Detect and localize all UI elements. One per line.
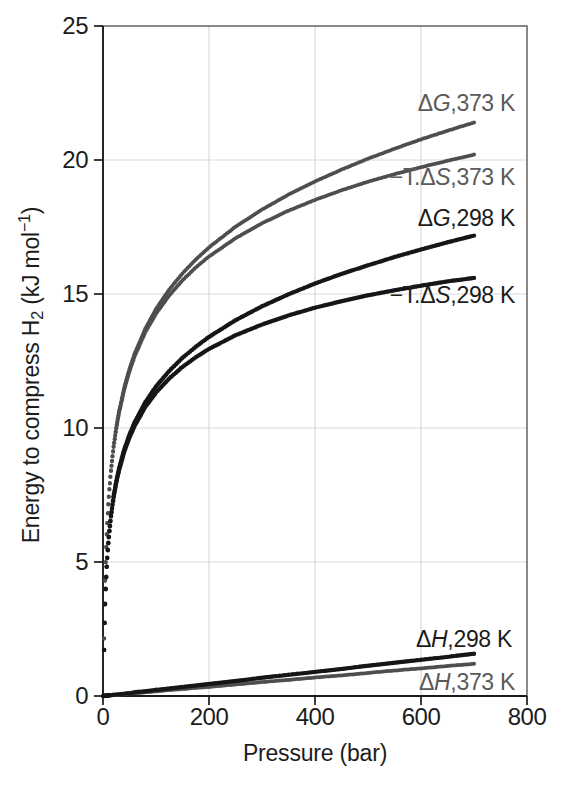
y-axis-title: Energy to compress H2 (kJ mol−1) xyxy=(15,165,43,585)
label-suffix: ,373 K xyxy=(450,164,515,190)
x-tick-label-600: 600 xyxy=(402,703,441,731)
y-tick-label-25: 25 xyxy=(18,12,88,40)
label-suffix: ,298 K xyxy=(450,282,515,308)
label-suffix: ,298 K xyxy=(447,626,512,652)
x-tick-label-800: 800 xyxy=(508,703,547,731)
label-symbol: S xyxy=(435,164,450,190)
label-symbol: H xyxy=(431,626,447,652)
label-prefix: −T.Δ xyxy=(390,164,436,190)
label-prefix: Δ xyxy=(419,669,434,695)
curve-label-delta-H-373K: ΔH,373 K xyxy=(419,669,515,695)
label-prefix: −T.Δ xyxy=(390,282,436,308)
label-prefix: Δ xyxy=(418,205,433,231)
x-axis-title: Pressure (bar) xyxy=(103,740,527,767)
compression-energy-chart: 0200400600800 0510152025 Energy to compr… xyxy=(0,0,567,786)
label-suffix: ,298 K xyxy=(450,205,515,231)
label-symbol: S xyxy=(435,282,450,308)
y-title-text: Energy to compress H xyxy=(18,320,44,544)
label-symbol: G xyxy=(433,90,451,116)
y-title-text: ) xyxy=(18,207,44,214)
curve-label-minus-T-delta-S-373K: −T.ΔS,373 K xyxy=(390,164,515,190)
curve-label-delta-H-298K: ΔH,298 K xyxy=(416,626,512,652)
y-title-subscript: 2 xyxy=(28,311,46,320)
x-tick-label-0: 0 xyxy=(97,703,110,731)
curve-label-minus-T-delta-S-298K: −T.ΔS,298 K xyxy=(390,282,515,308)
y-title-superscript: −1 xyxy=(15,214,33,232)
label-suffix: ,373 K xyxy=(450,90,515,116)
x-tick-label-200: 200 xyxy=(190,703,229,731)
curve-label-delta-G-373K: ΔG,373 K xyxy=(418,90,515,116)
label-prefix: Δ xyxy=(418,90,433,116)
y-title-text: (kJ mol xyxy=(18,232,44,311)
label-symbol: H xyxy=(434,669,450,695)
label-suffix: ,373 K xyxy=(450,669,515,695)
label-symbol: G xyxy=(433,205,451,231)
x-tick-label-400: 400 xyxy=(296,703,335,731)
label-prefix: Δ xyxy=(416,626,431,652)
curve-label-delta-G-298K: ΔG,298 K xyxy=(418,205,515,231)
y-tick-label-0: 0 xyxy=(18,682,88,710)
